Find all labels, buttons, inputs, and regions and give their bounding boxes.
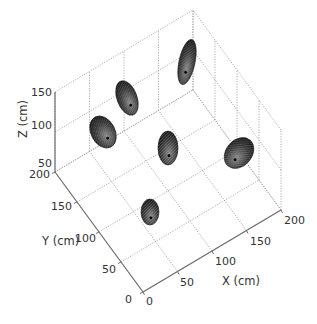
x-tick-50: 50: [180, 276, 194, 289]
x-tick-mark: [212, 251, 214, 254]
y-tick-50: 50: [102, 263, 116, 276]
y-tick-150: 150: [51, 200, 72, 213]
3d-scatter-plot: 0 50 100 150 200 X (cm) 0 50 100 150 200…: [0, 0, 317, 324]
x-tick-150: 150: [250, 235, 271, 248]
y-tick-mark: [96, 232, 99, 234]
x-tick-mark: [178, 272, 180, 275]
x-tick-mark: [247, 231, 249, 234]
x-tick-labels: 0 50 100 150 200: [146, 214, 305, 308]
x-tick-mark: [143, 292, 145, 295]
z-tick-150: 150: [31, 86, 52, 99]
y-tick-mark: [140, 292, 143, 294]
ellipsoid-marker: [141, 199, 159, 225]
ellipsoid-marker: [158, 131, 178, 165]
ellipsoid-marker: [84, 111, 121, 152]
x-tick-0: 0: [146, 295, 153, 308]
grid-line: [55, 10, 193, 92]
y-tick-mark: [118, 262, 121, 264]
z-tick-labels: 50 100 150: [31, 86, 52, 170]
z-tick-50: 50: [38, 157, 52, 170]
ellipsoid-marker: [174, 38, 199, 86]
x-tick-100: 100: [215, 255, 236, 268]
x-tick-200: 200: [284, 214, 305, 227]
z-axis-label: Z (cm): [16, 100, 30, 138]
y-tick-mark: [74, 202, 77, 204]
x-axis-label: X (cm): [222, 274, 260, 288]
y-axis-label: Y (cm): [41, 234, 79, 248]
z-tick-100: 100: [31, 119, 52, 132]
data-markers: [84, 38, 259, 225]
axes: [52, 92, 283, 295]
x-tick-mark: [281, 210, 283, 213]
y-tick-0: 0: [125, 293, 132, 306]
grid-line: [193, 10, 281, 130]
y-tick-mark: [52, 172, 55, 174]
ellipsoid-marker: [218, 132, 260, 175]
ellipsoid-marker: [111, 78, 142, 119]
